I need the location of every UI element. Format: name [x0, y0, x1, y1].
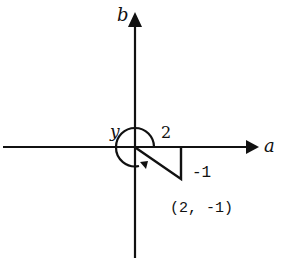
a-axis-arrow-icon [246, 140, 259, 154]
horizontal-leg-label: 2 [161, 123, 171, 142]
a-axis-label: a [264, 135, 275, 156]
angle-arrow-icon [140, 161, 148, 169]
b-axis-arrow-icon [128, 12, 142, 27]
angle-label: y [109, 121, 120, 141]
b-axis-label: b [117, 4, 129, 25]
vertical-leg-label: -1 [192, 164, 211, 182]
complex-plane-diagram: b a y 2 -1 (2, -1) [0, 0, 282, 268]
point-label: (2, -1) [170, 200, 233, 217]
